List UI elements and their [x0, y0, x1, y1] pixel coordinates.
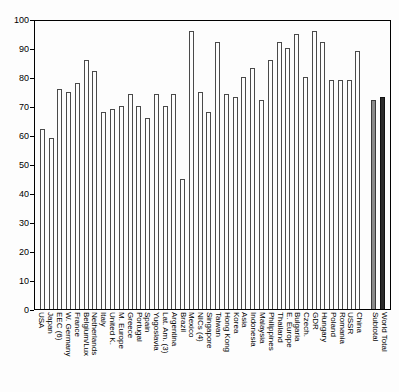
x-axis-label-slot: NICs (4): [196, 311, 205, 392]
bar-slot[interactable]: [248, 21, 257, 309]
bar[interactable]: [84, 60, 89, 309]
bar[interactable]: [233, 97, 238, 309]
bar-slot[interactable]: [47, 21, 56, 309]
bar-slot[interactable]: [292, 21, 301, 309]
bar[interactable]: [40, 129, 45, 309]
bar-slot[interactable]: [73, 21, 82, 309]
bar-slot[interactable]: [275, 21, 284, 309]
bar-slot[interactable]: [222, 21, 231, 309]
bar-slot[interactable]: [117, 21, 126, 309]
bar[interactable]: [163, 106, 168, 309]
bar-slot[interactable]: [205, 21, 214, 309]
x-axis-label-slot: Italy: [99, 311, 108, 392]
bar[interactable]: [154, 94, 159, 309]
x-axis-tick-label: E. Europe: [285, 312, 293, 348]
bar[interactable]: [110, 109, 115, 309]
bar[interactable]: [320, 42, 325, 309]
bar[interactable]: [136, 106, 141, 309]
bar-slot[interactable]: [196, 21, 205, 309]
x-axis-tick-label: Czech.: [302, 312, 310, 337]
bar-slot[interactable]: [56, 21, 65, 309]
bar-slot[interactable]: [178, 21, 187, 309]
x-axis-label-slot: Yugoslavia: [152, 311, 161, 392]
bar-slot[interactable]: [99, 21, 108, 309]
bar[interactable]: [75, 83, 80, 309]
bar[interactable]: [119, 106, 124, 309]
bar-slot[interactable]: [283, 21, 292, 309]
bar[interactable]: [101, 112, 106, 309]
x-axis-tick-label: Portugal: [135, 312, 143, 342]
bar[interactable]: [128, 94, 133, 309]
bar[interactable]: [355, 51, 360, 309]
bar[interactable]: [241, 77, 246, 309]
bar[interactable]: [180, 179, 185, 310]
x-axis-label-slot: Brazil: [178, 311, 187, 392]
bar-slot[interactable]: [143, 21, 152, 309]
x-axis-tick-label: GDR: [311, 312, 319, 330]
bar[interactable]: [224, 94, 229, 309]
bar-slot[interactable]: [378, 21, 387, 309]
bar[interactable]: [171, 94, 176, 309]
bar-slot[interactable]: [38, 21, 47, 309]
bar[interactable]: [371, 100, 376, 309]
bar-slot[interactable]: [231, 21, 240, 309]
bar[interactable]: [57, 89, 62, 309]
x-axis-label-slot: W. Germany: [63, 311, 72, 392]
bar[interactable]: [49, 138, 54, 309]
x-axis-tick-label: USA: [37, 312, 45, 328]
x-axis-tick-label: Malaysia: [258, 312, 266, 344]
bar-slot[interactable]: [187, 21, 196, 309]
x-axis-tick-label: Mexico: [187, 312, 195, 337]
bar-slot[interactable]: [369, 21, 378, 309]
bar[interactable]: [206, 112, 211, 309]
bar-slot[interactable]: [169, 21, 178, 309]
bar[interactable]: [380, 97, 385, 309]
x-axis-label-slot: Asia: [240, 311, 249, 392]
x-axis-label-slot: Taiwan: [214, 311, 223, 392]
bar[interactable]: [189, 31, 194, 309]
x-axis-tick-label: Romania: [338, 312, 346, 344]
x-axis-tick-label: M. Europe: [117, 312, 125, 349]
bar[interactable]: [268, 60, 273, 309]
bar[interactable]: [215, 42, 220, 309]
bar[interactable]: [303, 77, 308, 309]
x-axis-tick-label: Bulgaria: [293, 312, 301, 341]
bar-slot[interactable]: [91, 21, 100, 309]
bar-slot[interactable]: [240, 21, 249, 309]
bar-slot[interactable]: [301, 21, 310, 309]
x-axis-tick-label: Spain: [143, 312, 151, 332]
bar-slot[interactable]: [257, 21, 266, 309]
x-axis-tick-label: Indonesia: [249, 312, 257, 347]
bar-slot[interactable]: [266, 21, 275, 309]
bar[interactable]: [250, 68, 255, 309]
bar-slot[interactable]: [152, 21, 161, 309]
bar-slot[interactable]: [213, 21, 222, 309]
bar[interactable]: [347, 80, 352, 309]
bar[interactable]: [198, 92, 203, 310]
bar-slot[interactable]: [327, 21, 336, 309]
bar[interactable]: [329, 80, 334, 309]
bar-slot[interactable]: [126, 21, 135, 309]
bar[interactable]: [277, 42, 282, 309]
bar[interactable]: [92, 71, 97, 309]
bar-slot[interactable]: [161, 21, 170, 309]
bar-slot[interactable]: [310, 21, 319, 309]
bar[interactable]: [285, 48, 290, 309]
bar-slot[interactable]: [64, 21, 73, 309]
bar[interactable]: [259, 100, 264, 309]
x-axis-label-slot: Hungary: [320, 311, 329, 392]
x-axis-label-slot: Romania: [337, 311, 346, 392]
bar[interactable]: [145, 118, 150, 309]
bar[interactable]: [338, 80, 343, 309]
bar-slot[interactable]: [319, 21, 328, 309]
bar-slot[interactable]: [336, 21, 345, 309]
bar-slot[interactable]: [108, 21, 117, 309]
bar-slot[interactable]: [134, 21, 143, 309]
bar-slot[interactable]: [354, 21, 363, 309]
x-axis-label-slot: Bulgaria: [293, 311, 302, 392]
bar[interactable]: [66, 92, 71, 310]
bar-slot[interactable]: [82, 21, 91, 309]
bar[interactable]: [294, 34, 299, 310]
bar[interactable]: [312, 31, 317, 309]
bar-slot[interactable]: [345, 21, 354, 309]
